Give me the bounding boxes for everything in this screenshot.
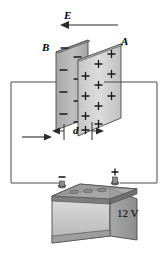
wire-left-branch <box>11 82 62 183</box>
separation-distance-label: d <box>73 125 79 136</box>
battery-terminal-negative <box>58 177 66 188</box>
electric-field-label: E <box>64 10 71 21</box>
plate-a-label: A <box>121 36 128 47</box>
car-battery <box>52 169 137 243</box>
battery-terminal-positive <box>111 169 119 185</box>
battery-voltage-label: 12 V <box>117 207 139 219</box>
wire-arrow-plate-b <box>22 134 52 141</box>
wire-right-branch <box>120 82 157 183</box>
physics-figure-capacitor-battery: E B A d 12 V <box>0 0 168 255</box>
figure-canvas <box>0 0 168 255</box>
capacitor-plate-a <box>78 44 123 136</box>
plate-b-label: B <box>42 42 49 53</box>
electric-field-arrow <box>60 21 118 29</box>
